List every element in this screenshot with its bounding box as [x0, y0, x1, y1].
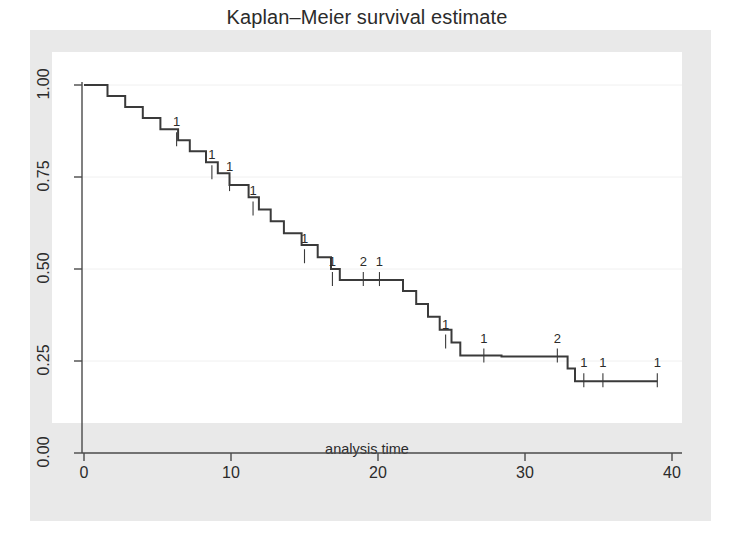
- x-tick-label: 10: [222, 464, 240, 482]
- axis-ticks-group: [74, 85, 672, 461]
- y-tick-label: 0.50: [35, 246, 53, 290]
- figure-canvas: Kaplan–Meier survival estimate analysis …: [0, 0, 734, 551]
- censor-count-label: 1: [249, 183, 256, 198]
- y-tick-label: 1.00: [35, 62, 53, 106]
- censor-count-label: 1: [173, 114, 180, 129]
- censor-count-label: 1: [226, 159, 233, 174]
- x-tick-label: 40: [663, 464, 681, 482]
- censor-count-label: 1: [376, 254, 383, 269]
- y-tick-label: 0.75: [35, 154, 53, 198]
- censoring-tick-marks: [177, 132, 658, 387]
- censor-count-label: 1: [329, 254, 336, 269]
- x-tick-label: 20: [369, 464, 387, 482]
- censor-count-label: 1: [654, 355, 661, 370]
- y-tick-label: 0.00: [35, 430, 53, 474]
- censor-count-label: 1: [442, 317, 449, 332]
- survival-step-line: [84, 85, 657, 381]
- censor-count-label: 1: [580, 355, 587, 370]
- censor-count-label: 2: [360, 254, 367, 269]
- censor-count-label: 1: [599, 355, 606, 370]
- censor-count-label: 1: [301, 231, 308, 246]
- x-tick-label: 30: [516, 464, 534, 482]
- censor-count-label: 1: [480, 331, 487, 346]
- kaplan-meier-survival-curve: [0, 0, 734, 551]
- x-tick-label: 0: [80, 464, 89, 482]
- y-tick-label: 0.25: [35, 338, 53, 382]
- censor-count-label: 1: [208, 147, 215, 162]
- censor-count-label: 2: [554, 331, 561, 346]
